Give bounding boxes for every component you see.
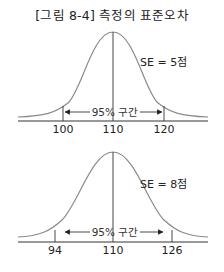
interval-label: 95% 구간 bbox=[92, 226, 139, 238]
interval-label: 95% 구간 bbox=[92, 106, 139, 118]
diagram-canvas: 95% 구간 SE = 5점 100 110 120 95% 구간 SE = 8… bbox=[0, 0, 224, 272]
tick-label-center: 110 bbox=[103, 123, 124, 136]
tick-label-left: 94 bbox=[48, 244, 62, 257]
panel-se5: 95% 구간 SE = 5점 100 110 120 bbox=[18, 32, 208, 136]
tick-label-left: 100 bbox=[53, 123, 74, 136]
tick-label-center: 110 bbox=[103, 244, 124, 257]
se-label: SE = 5점 bbox=[140, 56, 187, 69]
se-label: SE = 8점 bbox=[140, 178, 187, 191]
panel-se8: 95% 구간 SE = 8점 94 110 126 bbox=[18, 152, 208, 257]
tick-label-right: 120 bbox=[154, 123, 175, 136]
tick-label-right: 126 bbox=[162, 244, 183, 257]
